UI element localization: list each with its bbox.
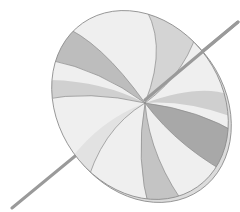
disc-face (0, 0, 240, 212)
spinning-top-illustration (0, 0, 240, 212)
